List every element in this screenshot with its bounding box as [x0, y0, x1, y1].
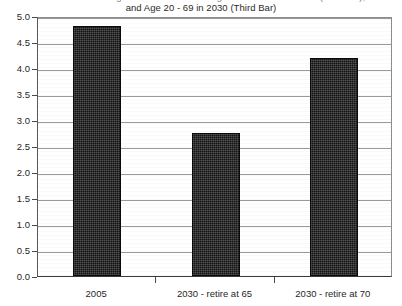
y-axis-tick: 1.0 — [0, 219, 37, 231]
bar — [310, 58, 358, 276]
y-axis-tick-label: 1.0 — [17, 219, 30, 231]
y-axis-tick: 3.5 — [0, 89, 37, 101]
y-axis-tick: 4.0 — [0, 63, 37, 75]
x-axis-tick-mark — [274, 277, 275, 283]
y-axis-tick-label: 2.0 — [17, 167, 30, 179]
y-axis-tick: 1.5 — [0, 193, 37, 205]
plot-area — [37, 17, 392, 277]
y-axis-tick: 3.0 — [0, 115, 37, 127]
x-axis-category-label: 2005 — [86, 288, 107, 300]
y-axis-tick-label: 3.5 — [17, 89, 30, 101]
y-axis-tick-label: 2.5 — [17, 141, 30, 153]
chart-title: Ratio of Persons Age 20 - 64 to Persons … — [0, 0, 402, 13]
y-axis-tick-label: 1.5 — [17, 193, 30, 205]
x-axis-category-label: 2030 - retire at 70 — [295, 288, 370, 300]
chart-title-line-1: Ratio of Persons Age 20 - 64 to Persons … — [0, 0, 402, 2]
y-axis-tick: 4.5 — [0, 37, 37, 49]
y-axis-tick-label: 3.0 — [17, 115, 30, 127]
y-axis-tick: 5.0 — [0, 11, 37, 23]
bar — [73, 26, 121, 276]
y-axis-tick-label: 0.5 — [17, 245, 30, 257]
chart-title-line-2: and Age 20 - 69 in 2030 (Third Bar) — [0, 2, 402, 13]
y-axis-tick: 2.0 — [0, 167, 37, 179]
bar-chart: Ratio of Persons Age 20 - 64 to Persons … — [0, 0, 402, 306]
y-axis-tick-label: 4.5 — [17, 37, 30, 49]
y-axis: 5.04.54.03.53.02.52.01.51.00.50.0 — [0, 17, 37, 277]
y-axis-tick: 0.0 — [0, 271, 37, 283]
y-axis-tick-label: 0.0 — [17, 271, 30, 283]
bar — [192, 133, 240, 276]
y-axis-tick-label: 5.0 — [17, 11, 30, 23]
y-axis-tick-label: 4.0 — [17, 63, 30, 75]
y-axis-tick: 0.5 — [0, 245, 37, 257]
bars-layer — [38, 18, 391, 276]
x-axis: 20052030 - retire at 652030 - retire at … — [37, 277, 392, 306]
x-axis-category-label: 2030 - retire at 65 — [177, 288, 252, 300]
y-axis-tick: 2.5 — [0, 141, 37, 153]
x-axis-tick-mark — [155, 277, 156, 283]
